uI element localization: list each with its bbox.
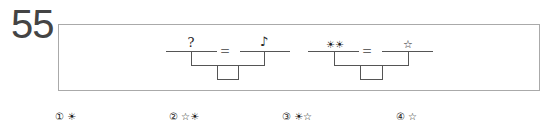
right-line <box>240 51 290 52</box>
star-sun-icons: ☆☀ <box>181 110 199 124</box>
question-number: 55 <box>11 2 54 46</box>
option-1[interactable]: ① ☀ <box>55 110 76 124</box>
left-symbol: ? <box>183 37 199 49</box>
option-4[interactable]: ④ ☆ <box>396 110 417 124</box>
answer-blank-box[interactable] <box>360 65 383 80</box>
star-icon: ☆ <box>408 110 417 124</box>
left-connector <box>334 51 335 66</box>
right-connector <box>408 51 409 66</box>
right-symbol: ☆ <box>400 39 416 51</box>
answer-options: ① ☀ ② ☆☀ ③ ☀☆ ④ ☆ <box>0 110 556 126</box>
diagram-frame <box>58 24 540 91</box>
left-symbol: ☀☀ <box>323 39 347 51</box>
sun-icon: ☀ <box>67 110 76 124</box>
option-marker: ③ <box>282 111 291 122</box>
answer-blank-box[interactable] <box>217 65 239 80</box>
option-3[interactable]: ③ ☀☆ <box>282 110 312 124</box>
equals-sign: = <box>220 45 230 57</box>
option-marker: ④ <box>396 111 405 122</box>
option-marker: ② <box>169 111 178 122</box>
equals-sign: = <box>362 45 372 57</box>
right-symbol: ♪ <box>256 36 272 48</box>
option-marker: ① <box>55 111 64 122</box>
option-2[interactable]: ② ☆☀ <box>169 110 199 124</box>
sun-star-icons: ☀☆ <box>294 110 312 124</box>
right-connector <box>264 51 265 66</box>
left-connector <box>191 51 192 66</box>
